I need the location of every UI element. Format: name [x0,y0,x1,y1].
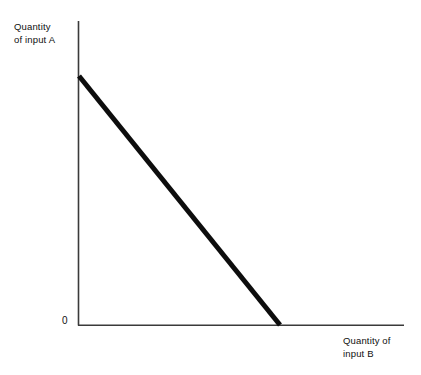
y-axis-label: Quantity of input A [14,21,76,46]
chart-figure: Quantity of input A Quantity of input B … [0,0,421,375]
x-axis-label: Quantity of input B [343,335,417,360]
origin-tick-label: 0 [62,315,68,327]
